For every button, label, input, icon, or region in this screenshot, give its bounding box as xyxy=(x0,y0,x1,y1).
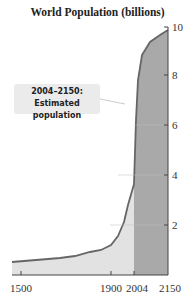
annotation-line-1: 2004–2150: xyxy=(14,86,100,98)
x-tick-2150: 2150 xyxy=(159,282,182,294)
annotation-line-2: Estimated population xyxy=(14,98,100,122)
y-tick-10: 10 xyxy=(172,21,184,33)
estimated-area xyxy=(134,30,168,275)
y-tick-6: 6 xyxy=(172,119,178,131)
x-tick-2004: 2004 xyxy=(126,282,149,294)
y-tick-8: 8 xyxy=(172,69,178,81)
y-tick-2: 2 xyxy=(172,219,178,231)
annotation-connector xyxy=(100,99,125,104)
estimated-population-annotation: 2004–2150: Estimated population xyxy=(14,84,100,114)
x-tick-1500: 1500 xyxy=(10,282,33,294)
x-tick-1900: 1900 xyxy=(100,282,123,294)
population-chart: 10 8 6 4 2 1500 1900 2004 2150 xyxy=(0,0,195,307)
y-tick-4: 4 xyxy=(172,169,178,181)
